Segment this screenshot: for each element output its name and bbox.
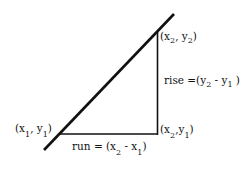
sloped-line bbox=[44, 14, 174, 150]
rise-label: rise =(y2 - y1 ) bbox=[164, 74, 240, 89]
point-label-x1-y1: (x1, y1) bbox=[15, 122, 52, 139]
point-label-x2-y1: (x2,y1) bbox=[160, 123, 194, 140]
run-label: run = (x2 - x1) bbox=[72, 140, 147, 157]
point-label-x2-y2: (x2, y2) bbox=[160, 30, 197, 45]
slope-diagram: (x2, y2) rise =(y2 - y1 ) (x1, y1) (x2,y… bbox=[0, 0, 252, 176]
